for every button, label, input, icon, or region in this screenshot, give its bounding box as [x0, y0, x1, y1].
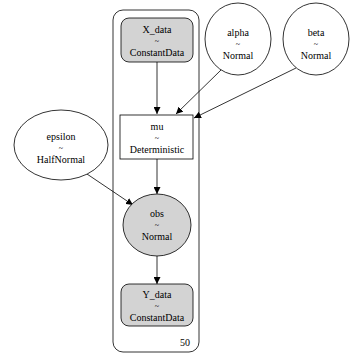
node-shape: [205, 3, 271, 75]
node-alpha[interactable]: alpha ~ Normal: [205, 3, 271, 75]
plate-label: 50: [180, 337, 190, 348]
node-dist: Deterministic: [130, 144, 185, 155]
node-dist: ConstantData: [130, 312, 185, 323]
node-dist: ConstantData: [130, 47, 185, 58]
node-name: X_data: [143, 24, 172, 35]
node-sep: ~: [155, 134, 160, 143]
node-dist: Normal: [142, 231, 173, 242]
edge-beta-mu: [194, 68, 296, 118]
node-sep: ~: [236, 40, 241, 49]
node-name: obs: [150, 208, 164, 219]
edge-epsilon-obs: [87, 174, 133, 205]
node-sep: ~: [155, 302, 160, 311]
node-beta[interactable]: beta ~ Normal: [283, 3, 349, 75]
node-dist: Normal: [301, 50, 332, 61]
node-sep: ~: [314, 40, 319, 49]
node-name: epsilon: [47, 131, 76, 142]
node-dist: Normal: [223, 50, 254, 61]
node-name: alpha: [227, 27, 249, 38]
node-name: beta: [308, 27, 325, 38]
node-obs[interactable]: obs ~ Normal: [123, 194, 191, 256]
node-sep: ~: [155, 37, 160, 46]
edges: [87, 62, 296, 284]
node-dist: HalfNormal: [37, 154, 86, 165]
node-epsilon[interactable]: epsilon ~ HalfNormal: [14, 110, 108, 180]
node-name: Y_data: [143, 289, 172, 300]
node-name: mu: [151, 121, 164, 132]
node-x-data[interactable]: X_data ~ ConstantData: [121, 18, 193, 62]
node-mu[interactable]: mu ~ Deterministic: [120, 115, 193, 159]
node-shape: [283, 3, 349, 75]
node-sep: ~: [59, 144, 64, 153]
model-graph: 50 X_data ~ ConstantData alpha ~ Normal …: [0, 0, 363, 361]
node-y-data[interactable]: Y_data ~ ConstantData: [121, 284, 193, 326]
edge-alpha-mu: [176, 70, 221, 114]
node-sep: ~: [155, 221, 160, 230]
